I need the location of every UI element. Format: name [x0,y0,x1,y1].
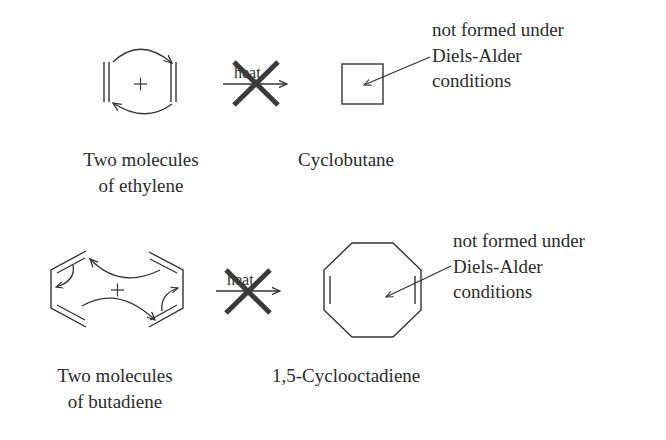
ethylene-right [171,62,176,102]
reactant-label-butadiene: Two molecules of butadiene [30,363,200,415]
reaction-arrow-2: heat [216,270,280,313]
annotation-line: Diels-Alder [432,43,564,69]
annotation-not-formed-2: not formed under Diels-Alder conditions [453,228,585,305]
annotation-line: not formed under [432,17,564,43]
annotation-pointer-1 [364,57,430,85]
butadiene-right [149,252,183,327]
plus-sign [111,284,124,297]
label-line: Two molecules [56,147,226,173]
label-line: Two molecules [30,363,200,389]
ethylene-left [104,62,109,102]
product-label-cyclooctadiene: 1,5-Cyclooctadiene [272,363,420,389]
label-line: of ethylene [56,173,226,199]
electron-push-arrow-bottom [82,298,155,320]
electron-push-arrow-right-inner [162,288,178,311]
reaction-arrow-1: heat [223,62,287,105]
annotation-pointer-2 [386,266,451,297]
annotation-not-formed-1: not formed under Diels-Alder conditions [432,17,564,94]
electron-push-arrow-top [113,49,172,63]
plus-sign [134,78,147,91]
butadiene-left [51,251,86,327]
annotation-line: conditions [453,279,585,305]
ethylene-pair-structure [104,49,176,114]
electron-push-arrow-top [90,259,160,278]
cyclobutane-structure [342,64,383,104]
cyclooctadiene-structure [324,243,421,337]
annotation-line: Diels-Alder [453,254,585,280]
annotation-line: not formed under [453,228,585,254]
butadiene-pair-structure [51,251,183,327]
label-line: of butadiene [30,389,200,415]
product-label-cyclobutane: Cyclobutane [298,147,394,173]
reactant-label-ethylene: Two molecules of ethylene [56,147,226,199]
annotation-line: conditions [432,68,564,94]
electron-push-arrow-bottom [113,103,172,114]
